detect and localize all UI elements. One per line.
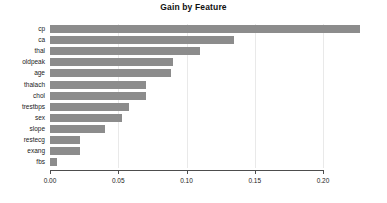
bar — [50, 125, 105, 133]
bar — [50, 58, 173, 66]
bar — [50, 147, 80, 155]
bar-series: cpcathaloldpeakagethalachcholtrestbpssex… — [50, 24, 362, 168]
chart-title: Gain by Feature — [0, 2, 387, 12]
bar-row: chol — [50, 92, 362, 103]
y-axis-label: exang — [27, 146, 45, 156]
bar-row: sex — [50, 114, 362, 125]
y-axis-label: trestbps — [22, 102, 45, 112]
bar — [50, 69, 171, 77]
bar-row: thal — [50, 47, 362, 58]
bar — [50, 114, 122, 122]
x-axis-tick-label: 0.10 — [180, 177, 193, 184]
x-axis-tick — [50, 170, 51, 174]
y-axis-label: chol — [33, 91, 45, 101]
x-axis-tick — [255, 170, 256, 174]
x-axis-tick — [118, 170, 119, 174]
bar — [50, 92, 146, 100]
bar-row: oldpeak — [50, 58, 362, 69]
y-axis-label: ca — [38, 35, 45, 45]
bar-row: age — [50, 69, 362, 80]
bar — [50, 81, 146, 89]
bar — [50, 47, 200, 55]
bar-row: slope — [50, 125, 362, 136]
bar-row: trestbps — [50, 103, 362, 114]
bar — [50, 36, 234, 44]
bar-row: thalach — [50, 81, 362, 92]
plot-area: cpcathaloldpeakagethalachcholtrestbpssex… — [50, 24, 362, 168]
x-axis-tick-label: 0.00 — [44, 177, 57, 184]
bar — [50, 158, 57, 166]
x-axis-tick-label: 0.15 — [248, 177, 261, 184]
y-axis-label: cp — [38, 24, 45, 34]
y-axis-label: thalach — [24, 80, 45, 90]
bar-row: cp — [50, 25, 362, 36]
y-axis-label: slope — [29, 124, 45, 134]
y-axis-label: oldpeak — [22, 57, 45, 67]
bar-row: fbs — [50, 158, 362, 169]
y-axis-label: thal — [35, 46, 45, 56]
bar — [50, 136, 80, 144]
bar-row: exang — [50, 147, 362, 158]
bar — [50, 25, 360, 33]
gain-by-feature-chart: Gain by Feature cpcathaloldpeakagethalac… — [0, 0, 387, 203]
x-axis-tick — [323, 170, 324, 174]
bar-row: restecg — [50, 136, 362, 147]
x-axis-tick — [187, 170, 188, 174]
x-axis-tick-label: 0.20 — [317, 177, 330, 184]
bar-row: ca — [50, 36, 362, 47]
x-axis-tick-label: 0.05 — [112, 177, 125, 184]
y-axis-label: sex — [35, 113, 45, 123]
y-axis-label: fbs — [36, 157, 45, 167]
y-axis-label: restecg — [24, 135, 45, 145]
y-axis-label: age — [34, 68, 45, 78]
bar — [50, 103, 129, 111]
